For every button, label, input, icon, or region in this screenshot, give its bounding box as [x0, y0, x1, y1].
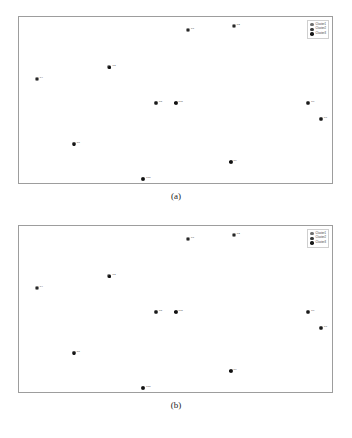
- scatter-point-label: P7: [324, 325, 327, 328]
- scatter-point-label: P10: [146, 385, 151, 388]
- scatter-point-marker: [72, 351, 76, 355]
- scatter-point-marker: [232, 233, 236, 237]
- scatter-point-label: P11: [179, 309, 183, 312]
- scatter-point-marker: [107, 65, 111, 69]
- caption-a: (a): [0, 190, 352, 202]
- scatter-point-marker: [306, 310, 310, 314]
- scatter-point-marker: [154, 101, 158, 105]
- legend-swatch-icon: [310, 23, 313, 26]
- scatter-point-label: P5: [159, 309, 162, 312]
- scatter-point-label: P1: [191, 236, 194, 239]
- figure-root: P1P2P3P4P5P6P7P8P9P10P11 Cluster1Cluster…: [0, 0, 352, 438]
- scatter-point-label: P4: [40, 76, 43, 79]
- scatter-point-marker: [174, 310, 178, 314]
- scatter-point-label: P6: [311, 309, 314, 312]
- caption-b: (b): [0, 399, 352, 411]
- scatter-point-marker: [154, 310, 158, 314]
- scatter-point-label: P2: [237, 23, 240, 26]
- scatter-point-marker: [319, 326, 323, 330]
- scatter-point-label: P1: [191, 27, 194, 30]
- scatter-point-label: P5: [159, 100, 162, 103]
- legend-swatch-icon: [310, 232, 313, 235]
- legend-a: Cluster1Cluster2Cluster3: [307, 20, 329, 39]
- scatter-point-marker: [141, 386, 145, 390]
- scatter-point-marker: [141, 177, 145, 181]
- scatter-point-marker: [72, 142, 76, 146]
- scatter-point-marker: [319, 117, 323, 121]
- scatter-point-marker: [35, 77, 39, 81]
- legend-swatch-icon: [310, 241, 313, 244]
- scatter-point-marker: [174, 101, 178, 105]
- scatter-point-label: P8: [77, 141, 80, 144]
- scatter-point-label: P9: [234, 368, 237, 371]
- legend-swatch-icon: [310, 32, 313, 35]
- scatter-point-marker: [232, 24, 236, 28]
- scatter-point-label: P3: [112, 273, 115, 276]
- legend-swatch-icon: [310, 237, 313, 240]
- legend-label: Cluster3: [316, 241, 326, 246]
- scatter-plot-a: P1P2P3P4P5P6P7P8P9P10P11 Cluster1Cluster…: [18, 16, 333, 184]
- legend-label: Cluster3: [316, 32, 326, 37]
- scatter-point-label: P11: [179, 100, 183, 103]
- scatter-point-marker: [107, 274, 111, 278]
- scatter-point-label: P4: [40, 285, 43, 288]
- legend-swatch-icon: [310, 28, 313, 31]
- scatter-point-label: P6: [311, 100, 314, 103]
- scatter-point-label: P3: [112, 64, 115, 67]
- scatter-point-label: P8: [77, 350, 80, 353]
- scatter-point-label: P9: [234, 159, 237, 162]
- scatter-point-marker: [186, 237, 190, 241]
- scatter-point-label: P10: [146, 176, 151, 179]
- scatter-point-label: P2: [237, 232, 240, 235]
- scatter-point-marker: [186, 28, 190, 32]
- scatter-plot-b: P1P2P3P4P5P6P7P8P9P10P11 Cluster1Cluster…: [18, 225, 333, 393]
- legend-item: Cluster3: [310, 32, 326, 37]
- scatter-point-marker: [229, 369, 233, 373]
- scatter-point-marker: [306, 101, 310, 105]
- legend-item: Cluster3: [310, 241, 326, 246]
- scatter-point-label: P7: [324, 116, 327, 119]
- scatter-point-marker: [229, 160, 233, 164]
- scatter-point-marker: [35, 286, 39, 290]
- legend-b: Cluster1Cluster2Cluster3: [307, 229, 329, 248]
